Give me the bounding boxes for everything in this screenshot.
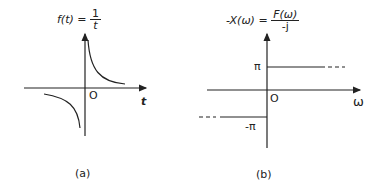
panel-b-origin-label: O — [270, 92, 279, 105]
panel-a-origin-label: O — [89, 89, 98, 102]
panel-a-curve-positive — [88, 40, 125, 84]
panel-a-title-lhs: f(t) = — [57, 13, 86, 26]
panel-a-title-fraction: 1 t — [90, 8, 101, 31]
panel-a-title: f(t) = 1 t — [57, 8, 101, 31]
panel-b-axes — [207, 34, 360, 148]
panel-a-caption: (a) — [75, 167, 90, 180]
panel-b-title: -X(ω) = F(ω) -j — [226, 9, 299, 32]
panel-a-axes — [24, 34, 146, 136]
panel-b-title-lhs: -X(ω) = — [226, 14, 268, 27]
panel-b-title-denominator: -j — [280, 21, 291, 32]
panel-b-x-axis-label: ω — [353, 94, 364, 109]
panel-a-title-denominator: t — [91, 20, 99, 31]
panel-a-x-axis-label: t — [141, 95, 146, 108]
panel-b-neg-pi-label: -π — [245, 120, 256, 133]
panel-b-pi-label: π — [254, 60, 261, 73]
panel-b-caption: (b) — [256, 168, 272, 181]
panel-b-title-fraction: F(ω) -j — [271, 9, 299, 32]
panel-a-curve-negative — [44, 94, 80, 128]
